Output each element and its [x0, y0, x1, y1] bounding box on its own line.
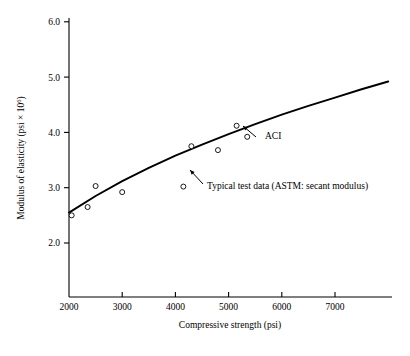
y-axis-title-tail: ): [16, 96, 27, 99]
data-point-marker: [215, 148, 220, 153]
data-point-marker: [234, 123, 239, 128]
x-tick-label: 5000: [219, 302, 238, 312]
x-tick-label: 2000: [60, 302, 79, 312]
data-point-marker: [120, 190, 125, 195]
x-axis-ticks: 200030004000500060007000: [60, 292, 345, 312]
y-axis-title-main: Modulus of elasticity (psi × 10: [16, 102, 27, 219]
test-data-points: [69, 123, 250, 218]
modulus-vs-strength-chart: 2.03.04.05.06.0 200030004000500060007000…: [0, 0, 410, 356]
x-tick-label: 6000: [272, 302, 291, 312]
y-tick-label: 5.0: [48, 73, 60, 83]
y-tick-label: 4.0: [48, 128, 60, 138]
data-point-marker: [69, 213, 74, 218]
y-tick-label: 2.0: [48, 238, 60, 248]
y-axis-title: Modulus of elasticity (psi × 106): [15, 96, 27, 219]
y-tick-label: 3.0: [48, 183, 60, 193]
chart-figure: 2.03.04.05.06.0 200030004000500060007000…: [0, 0, 410, 356]
axes: [69, 18, 392, 297]
chart-annotations: ACITypical test data (ASTM: secant modul…: [190, 126, 368, 192]
data-point-marker: [245, 134, 250, 139]
x-tick-label: 7000: [326, 302, 345, 312]
data-point-marker: [189, 144, 194, 149]
data-point-marker: [85, 205, 90, 210]
data-point-marker: [93, 184, 98, 189]
y-axis-ticks: 2.03.04.05.06.0: [48, 17, 69, 248]
y-tick-label: 6.0: [48, 17, 60, 27]
typical-test-data-annotation-label: Typical test data (ASTM: secant modulus): [207, 181, 368, 192]
x-axis-title: Compressive strength (psi): [179, 320, 281, 331]
aci-annotation-label: ACI: [265, 131, 281, 141]
data-point-marker: [181, 184, 186, 189]
x-tick-label: 4000: [166, 302, 185, 312]
aci-curve-line: [69, 82, 388, 213]
x-tick-label: 3000: [113, 302, 132, 312]
aci-curve: [69, 82, 388, 213]
